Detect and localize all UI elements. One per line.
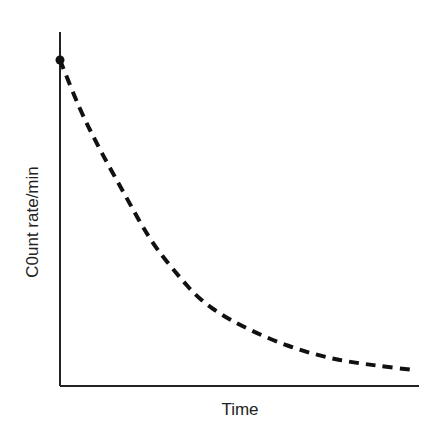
y-axis-label: C0unt rate/min bbox=[23, 166, 43, 278]
decay-curve bbox=[60, 60, 413, 370]
start-point-marker bbox=[56, 56, 65, 65]
decay-chart bbox=[0, 0, 446, 448]
x-axis-label: Time bbox=[221, 400, 258, 420]
